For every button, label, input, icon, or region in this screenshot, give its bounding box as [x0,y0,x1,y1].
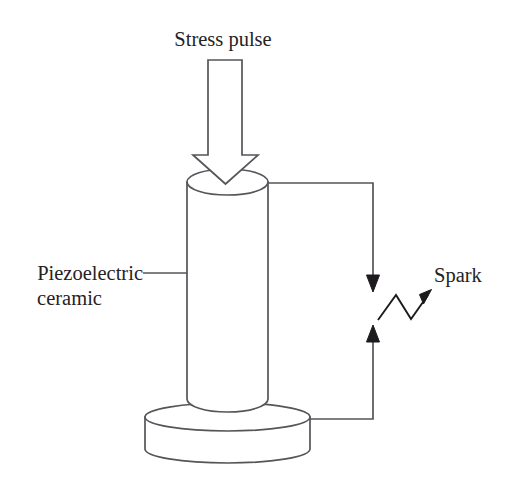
spark-gap [367,275,432,342]
ceramic-cylinder-body [187,182,268,412]
piezoelectric-ceramic-label-line1: Piezoelectric [37,262,143,284]
wire-top-segment [268,183,373,290]
piezoelectric-ceramic-label: Piezoelectric ceramic [0,261,143,311]
charge-down-arrow-icon [367,275,380,292]
wire-bottom-segment [310,328,373,419]
lightning-zigzag-icon [378,295,428,320]
stress-pulse-arrow-icon [193,60,258,184]
piezoelectric-ceramic-cylinder [187,169,268,412]
piezoelectric-ceramic-label-line2: ceramic [0,286,143,311]
spark-arrowhead-icon [420,290,432,305]
piezoelectric-spark-diagram: Stress pulse Piezoelectric ceramic Spark [0,0,516,496]
charge-up-arrow-icon [367,325,380,342]
stress-pulse-label: Stress pulse [0,27,446,52]
spark-label: Spark [434,263,482,288]
electrode-wire [268,183,373,419]
diagram-canvas [0,0,516,496]
